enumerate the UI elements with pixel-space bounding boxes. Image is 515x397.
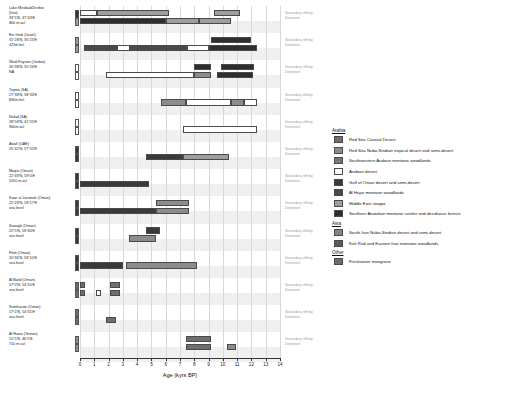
gridline — [280, 60, 281, 90]
legend-item[interactable]: Southern Anatolian montane conifer and d… — [332, 209, 512, 220]
gridline — [266, 224, 267, 254]
gridline — [151, 115, 152, 145]
legend-item[interactable]: South Iran Nubo-Sindian desert and semi-… — [332, 227, 512, 238]
dominant-label: Dominant — [285, 70, 345, 75]
legend-item[interactable]: Gulf of Oman desert and semi-desert — [332, 177, 512, 188]
axis-tick-label: 5 — [145, 362, 157, 367]
gridline — [166, 224, 167, 254]
legend-swatch — [334, 168, 343, 175]
gridline — [209, 305, 210, 335]
legend-item[interactable]: Arabian desert — [332, 166, 512, 177]
gridline — [123, 305, 124, 335]
site-elevation: 800 m asl — [9, 21, 73, 26]
axis-tick-label: 6 — [160, 362, 172, 367]
legend-label: Freshwater mangrove — [349, 259, 391, 264]
site-elevation: 900m asl — [9, 125, 73, 130]
site-label: Wadi Faynan (Jordan)30°38'N, 35°26'ENA — [9, 60, 73, 75]
site-elevation: 25°42'N, 57°55'E — [9, 147, 73, 152]
dominant-biome-bar — [217, 72, 253, 79]
site-row: Al Balid (Oman)17°0'N, 54°10'Esea levelS… — [0, 278, 320, 308]
site-label: Suwayh (Oman)22°5'N, 59°40'Esea level — [9, 224, 73, 239]
gridline — [94, 88, 95, 118]
gridline — [109, 88, 110, 118]
dominant-biome-bar — [231, 99, 244, 106]
gridline — [123, 251, 124, 281]
legend-item[interactable]: Middle East steppe — [332, 198, 512, 209]
legend-label: Red Sea Coastal Desert — [349, 137, 395, 142]
dominant-biome-bar — [187, 45, 208, 52]
legend-item[interactable]: Red Sea Coastal Desert — [332, 135, 512, 146]
gridline — [180, 305, 181, 335]
dominant-biome-bar — [183, 154, 229, 161]
legend-swatch — [334, 147, 343, 154]
gridline — [94, 115, 95, 145]
legend-group-title: Arabia — [332, 128, 512, 133]
gridline — [80, 305, 81, 335]
gridline — [209, 196, 210, 226]
site-timeline — [80, 115, 280, 145]
gridline — [280, 169, 281, 199]
gridline — [151, 278, 152, 308]
axis-tick — [280, 358, 281, 361]
legend-label: Red Sea Nubo-Sindian tropical desert and… — [349, 148, 453, 153]
dominant-biome-bar — [80, 18, 166, 25]
gridline — [251, 278, 252, 308]
row-biome-swatches — [75, 64, 79, 80]
gridline — [123, 142, 124, 172]
gridline — [137, 278, 138, 308]
row-biome-swatches — [75, 10, 79, 26]
legend-item[interactable]: Al Hajar montane woodlands — [332, 187, 512, 198]
site-timeline — [80, 6, 280, 36]
axis-tick — [266, 358, 267, 361]
legend-item[interactable]: Freshwater mangrove — [332, 256, 512, 267]
gridline — [223, 224, 224, 254]
legend-label: Al Hajar montane woodlands — [349, 190, 404, 195]
gridline — [280, 6, 281, 36]
gridline — [109, 278, 110, 308]
secondary-affinity-bar — [194, 64, 211, 71]
legend-group-title: Asia — [332, 221, 512, 226]
biome-swatch — [75, 282, 79, 290]
gridline — [123, 88, 124, 118]
legend-swatch — [334, 189, 343, 196]
biome-swatch — [75, 154, 79, 162]
axis-tick — [251, 358, 252, 361]
legend-swatch — [334, 210, 343, 217]
dominant-biome-bar — [126, 262, 197, 269]
dominant-biome-bar — [199, 18, 232, 25]
site-timeline — [80, 142, 280, 172]
row-biome-swatches — [75, 37, 79, 53]
biome-swatch — [75, 263, 79, 271]
site-elevation: sea level — [9, 288, 73, 293]
legend: ArabiaRed Sea Coastal DesertRed Sea Nubo… — [332, 128, 512, 267]
legend-swatch — [334, 240, 343, 247]
legend-swatch — [334, 157, 343, 164]
gridline — [237, 251, 238, 281]
legend-item[interactable]: Southwestern Arabian montane woodlands — [332, 156, 512, 167]
biome-swatch — [75, 45, 79, 53]
gridline — [151, 88, 152, 118]
legend-swatch — [334, 136, 343, 143]
chart-panel: Lake Mirabad/Zeribar(Iran)33°5'N, 47°43'… — [0, 0, 320, 360]
site-label: Awafi (UAE)25°42'N, 57°55'E — [9, 142, 73, 152]
dominant-label: Dominant — [285, 16, 345, 21]
dominant-biome-bar — [146, 154, 183, 161]
gridline — [266, 33, 267, 63]
gridline — [266, 88, 267, 118]
site-elevation: NA — [9, 70, 73, 75]
legend-item[interactable]: Kuh Rud and Eastern Iran montane woodlan… — [332, 238, 512, 249]
track-legend-labels: Secondary affinityDominant — [285, 11, 345, 21]
legend-item[interactable]: Red Sea Nubo-Sindian tropical desert and… — [332, 145, 512, 156]
biome-swatch — [75, 344, 79, 352]
gridline — [266, 6, 267, 36]
dominant-biome-bar — [129, 235, 156, 242]
dominant-label: Dominant — [285, 315, 345, 320]
legend-label: Southern Anatolian montane conifer and d… — [349, 211, 461, 216]
biome-swatch — [75, 181, 79, 189]
gridline — [109, 115, 110, 145]
dominant-biome-bar — [156, 208, 189, 215]
site-timeline — [80, 169, 280, 199]
gridline — [80, 224, 81, 254]
biome-swatch — [75, 64, 79, 72]
row-biome-swatches — [75, 173, 79, 189]
